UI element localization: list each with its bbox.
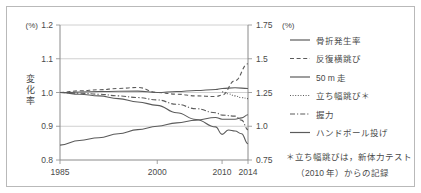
left-axis-tick-label: 1.2 xyxy=(41,20,53,30)
x-axis-tick-label: 1985 xyxy=(51,167,70,177)
figure-container: 1.21.11.00.90.81.751.51.251.00.751985200… xyxy=(0,0,421,193)
x-axis-tick-label: 2010 xyxy=(213,167,232,177)
legend-label: ハンドボール投げ xyxy=(316,128,388,138)
left-axis-tick-label: 1.0 xyxy=(41,88,53,98)
line-chart: 1.21.11.00.90.81.751.51.251.00.751985200… xyxy=(0,0,421,193)
footnote-line-2: （2010 年）からの記録 xyxy=(296,168,389,178)
footnote-line-1: ＊立ち幅跳びは，新体力テスト xyxy=(286,152,412,162)
right-axis-tick-label: 0.75 xyxy=(256,155,273,165)
left-axis-tick-label: 0.9 xyxy=(41,121,53,131)
left-axis-tick-label: 0.8 xyxy=(41,155,53,165)
series-line xyxy=(60,93,248,130)
series-line xyxy=(60,115,248,145)
right-axis-tick-label: 1.75 xyxy=(256,20,273,30)
legend-label: 骨折発生率 xyxy=(316,36,361,46)
legend-label: 立ち幅跳び＊ xyxy=(316,91,370,101)
right-axis-tick-label: 1.0 xyxy=(256,121,268,131)
legend-label: 反復横跳び xyxy=(316,54,361,64)
left-axis-tick-label: 1.1 xyxy=(41,54,53,64)
right-axis-tick-label: 1.5 xyxy=(256,54,268,64)
y-axis-title: 変化率 xyxy=(26,73,35,106)
x-axis-tick-label: 2000 xyxy=(148,167,167,177)
right-axis-tick-label: 1.25 xyxy=(256,88,273,98)
right-axis-unit: (%) xyxy=(282,21,295,30)
legend-label: 50 m 走 xyxy=(316,73,346,83)
x-axis-tick-label: 2014 xyxy=(239,167,258,177)
legend-label: 握力 xyxy=(316,110,334,120)
left-axis-unit: (%) xyxy=(26,21,39,30)
